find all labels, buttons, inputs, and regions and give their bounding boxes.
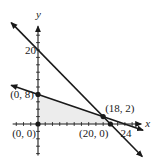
vertex-point <box>108 121 113 126</box>
y-axis-label: y <box>35 8 41 20</box>
vertex-label: (0, 8) <box>10 88 34 101</box>
vertex-label: (0, 0) <box>12 127 36 140</box>
vertex-label: (18, 2) <box>105 102 135 115</box>
linear-programming-graph: x y 2024 (0, 0)(0, 8)(18, 2)(20, 0) <box>0 0 161 167</box>
vertex-label: (20, 0) <box>79 127 109 140</box>
vertex-point <box>35 92 40 97</box>
vertex-point <box>35 121 40 126</box>
vertex-point <box>101 114 106 119</box>
y-tick-label: 20 <box>25 44 37 56</box>
x-tick-label: 24 <box>120 127 132 139</box>
x-axis-label: x <box>144 117 150 129</box>
